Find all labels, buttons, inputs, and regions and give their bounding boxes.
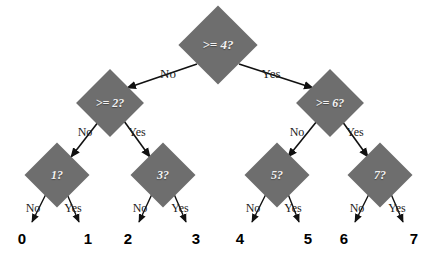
edge-label-n2-yes: Yes	[128, 125, 145, 140]
edge-label-n6-no: No	[290, 125, 305, 140]
edge-label-n2-no: No	[78, 125, 93, 140]
edge-label-root-no: No	[160, 66, 176, 82]
leaf-edge-label-n5-no: No	[246, 201, 261, 216]
leaf-output-1: 1	[84, 230, 92, 247]
edge-label-n6-yes: Yes	[346, 125, 363, 140]
leaf-edges	[32, 194, 403, 222]
leaf-edge-label-n7-no: No	[350, 201, 365, 216]
leaf-edge-label-n7-yes: Yes	[388, 201, 405, 216]
leaf-edge-label-n3-no: No	[133, 201, 148, 216]
leaf-edge-label-n1-no: No	[26, 201, 41, 216]
leaf-edge-label-n3-yes: Yes	[171, 201, 188, 216]
leaf-output-6: 6	[340, 230, 348, 247]
leaf-output-3: 3	[192, 230, 200, 247]
leaf-output-2: 2	[124, 230, 132, 247]
leaf-output-4: 4	[236, 230, 244, 247]
decision-tree-diagram: >= 4?>= 2?>= 6?1?3?5?7?NoYesNoYesNoYesNo…	[0, 0, 442, 255]
leaf-edge-label-n5-yes: Yes	[284, 201, 301, 216]
leaf-output-0: 0	[18, 230, 26, 247]
edge-label-root-yes: Yes	[262, 66, 281, 82]
leaf-output-7: 7	[410, 230, 418, 247]
leaf-edge-label-n1-yes: Yes	[64, 201, 81, 216]
leaf-output-5: 5	[304, 230, 312, 247]
